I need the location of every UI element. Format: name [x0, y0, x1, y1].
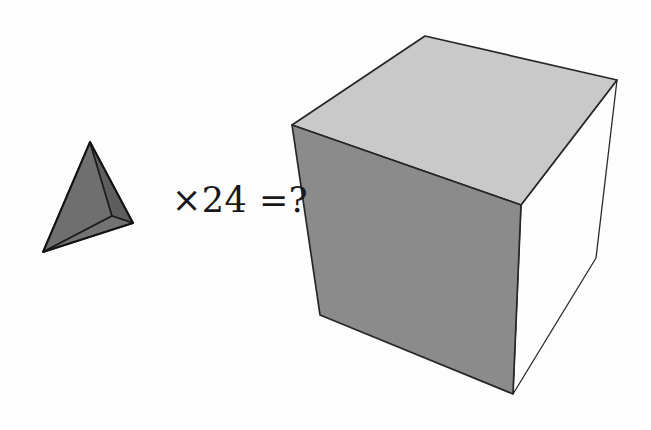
geometry-illustration	[0, 0, 651, 430]
equation-label: ×24 =?	[172, 183, 308, 218]
figure-canvas: ×24 =?	[0, 0, 651, 430]
